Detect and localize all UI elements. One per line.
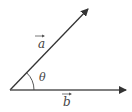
vector-angle-diagram: a b θ: [0, 0, 132, 112]
vector-a-label: a: [35, 35, 45, 52]
vector-b-label-text: b: [63, 95, 71, 109]
angle-theta-label: θ: [39, 71, 46, 84]
angle-arc: [27, 73, 34, 90]
vector-a-label-text: a: [38, 37, 45, 51]
vector-a-arrow: [10, 9, 88, 90]
vector-b-label: b: [62, 93, 72, 110]
